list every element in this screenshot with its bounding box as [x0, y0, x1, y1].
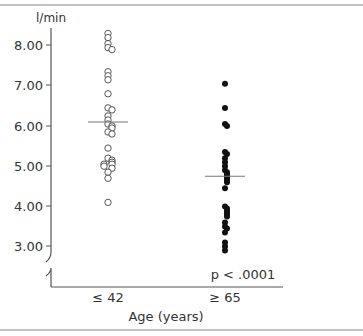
series-old-filled-circles — [222, 81, 230, 254]
data-point-filled — [222, 248, 228, 254]
data-point-open — [109, 131, 115, 137]
axis-break-lower — [46, 268, 51, 287]
y-tick-label: 7.00 — [14, 78, 43, 93]
data-point-filled — [224, 179, 230, 185]
y-tick-label: 8.00 — [14, 38, 43, 53]
data-point-open — [109, 46, 115, 52]
y-tick-label: 5.00 — [14, 159, 43, 174]
data-point-open — [105, 175, 111, 181]
y-axis — [46, 28, 51, 287]
y-tick-label: 4.00 — [14, 199, 43, 214]
data-point-filled — [222, 81, 228, 87]
p-value-annotation: p < .0001 — [211, 267, 276, 282]
data-point-filled — [222, 230, 228, 236]
x-axis-title: Age (years) — [128, 309, 203, 324]
data-point-open — [105, 34, 111, 40]
y-axis-unit: l/min — [36, 11, 66, 25]
axis-break-upper — [46, 252, 51, 262]
data-point-filled — [224, 213, 230, 219]
data-point-filled — [222, 105, 228, 111]
series-young-open-circles — [101, 30, 115, 205]
data-point-filled — [224, 123, 230, 129]
x-category-label-young: ≤ 42 — [92, 290, 124, 305]
data-point-open — [101, 163, 107, 169]
data-point-open — [105, 77, 111, 83]
data-point-open — [109, 107, 115, 113]
data-point-open — [105, 169, 111, 175]
data-point-open — [105, 199, 111, 205]
y-tick-label: 3.00 — [14, 239, 43, 254]
chart-canvas: l/min 8.00 7.00 6.00 5.00 4.00 3.00 ≤ 42… — [0, 0, 363, 336]
data-point-open — [105, 145, 111, 151]
data-point-open — [105, 91, 111, 97]
data-point-filled — [222, 185, 228, 191]
y-tick-label: 6.00 — [14, 119, 43, 134]
x-category-label-old: ≥ 65 — [209, 290, 241, 305]
